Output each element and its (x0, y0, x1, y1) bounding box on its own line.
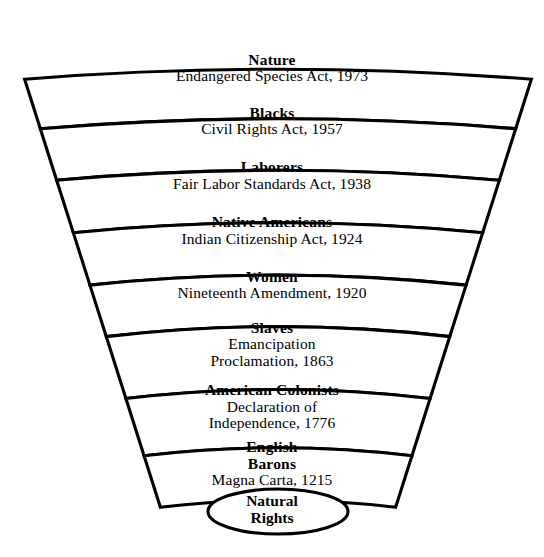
band-subtitle-american-colonists-line1: Declaration of (0, 399, 544, 415)
band-subtitle-nature: Endangered Species Act, 1973 (0, 68, 544, 84)
band-american-colonists: American ColonistsDeclaration ofIndepend… (0, 382, 544, 431)
band-subtitle-native-americans: Indian Citizenship Act, 1924 (0, 231, 544, 247)
band-title-blacks: Blacks (0, 105, 544, 121)
band-subtitle-english-barons: Magna Carta, 1215 (0, 472, 544, 488)
band-slaves: SlavesEmancipationProclamation, 1863 (0, 320, 544, 369)
band-title-english-barons-line2: Barons (0, 456, 544, 472)
natural-rights-label: NaturalRights (0, 492, 544, 527)
natural-rights-line1: Natural (0, 492, 544, 509)
band-title-slaves: Slaves (0, 320, 544, 336)
band-native-americans: Native AmericansIndian Citizenship Act, … (0, 214, 544, 247)
band-title-laborers: Laborers (0, 159, 544, 175)
rights-expansion-fan-diagram: NatureEndangered Species Act, 1973Blacks… (0, 0, 544, 557)
band-title-women: Women (0, 269, 544, 285)
natural-rights-line2: Rights (0, 509, 544, 526)
band-laborers: LaborersFair Labor Standards Act, 1938 (0, 159, 544, 192)
band-women: WomenNineteenth Amendment, 1920 (0, 269, 544, 302)
band-nature: NatureEndangered Species Act, 1973 (0, 52, 544, 85)
band-subtitle-blacks: Civil Rights Act, 1957 (0, 121, 544, 137)
band-blacks: BlacksCivil Rights Act, 1957 (0, 105, 544, 138)
band-title-nature: Nature (0, 52, 544, 68)
band-subtitle-american-colonists-line2: Independence, 1776 (0, 415, 544, 431)
band-subtitle-women: Nineteenth Amendment, 1920 (0, 285, 544, 301)
band-english-barons: EnglishBaronsMagna Carta, 1215 (0, 439, 544, 488)
band-subtitle-slaves-line1: Emancipation (0, 336, 544, 352)
band-subtitle-laborers: Fair Labor Standards Act, 1938 (0, 176, 544, 192)
band-title-native-americans: Native Americans (0, 214, 544, 230)
band-title-english-barons-line1: English (0, 439, 544, 455)
band-subtitle-slaves-line2: Proclamation, 1863 (0, 353, 544, 369)
band-title-american-colonists: American Colonists (0, 382, 544, 398)
